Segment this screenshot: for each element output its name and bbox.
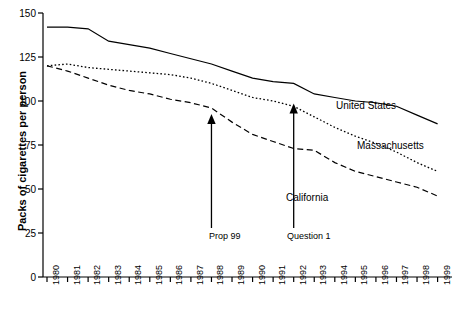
x-tick-label: 1984 (133, 265, 143, 285)
series-label-california: California (286, 192, 328, 203)
x-tick-label: 1995 (359, 265, 369, 285)
series-paths (47, 27, 438, 196)
x-tick-label: 1988 (215, 265, 225, 285)
series-line-massachusetts (47, 64, 438, 171)
series-line-california (47, 66, 438, 196)
x-tick-label: 1997 (400, 265, 410, 285)
x-tick-label: 1981 (72, 265, 82, 285)
annotation-label-question-1: Question 1 (287, 231, 331, 241)
x-tick-label: 1990 (257, 265, 267, 285)
series-label-massachusetts: Massachusetts (357, 140, 424, 151)
cigarette-consumption-chart: Packs of cigarettes per person 150 125 1… (0, 0, 476, 333)
annotation-label-prop-99: Prop 99 (209, 231, 241, 241)
x-tick-label: 1985 (154, 265, 164, 285)
x-tick-label: 1986 (174, 265, 184, 285)
x-tick-label: 1983 (113, 265, 123, 285)
x-tick-label: 1980 (51, 265, 61, 285)
y-tick-marks (38, 13, 43, 277)
annotation-arrow-head (207, 114, 215, 124)
x-tick-label: 1989 (236, 265, 246, 285)
x-tick-label: 1991 (277, 265, 287, 285)
x-tick-label: 1982 (92, 265, 102, 285)
x-tick-label: 1999 (442, 265, 452, 285)
x-tick-label: 1996 (380, 265, 390, 285)
x-tick-label: 1992 (298, 265, 308, 285)
annotation-arrows (207, 104, 298, 228)
x-tick-label: 1987 (195, 265, 205, 285)
x-tick-label: 1993 (318, 265, 328, 285)
x-tick-label: 1998 (421, 265, 431, 285)
series-label-united-states: United States (336, 100, 396, 111)
x-tick-label: 1994 (339, 265, 349, 285)
